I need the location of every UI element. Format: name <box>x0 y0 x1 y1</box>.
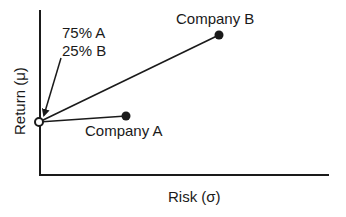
annotation-arrow <box>44 58 61 115</box>
x-axis-label: Risk (σ) <box>168 188 221 205</box>
company-a-point <box>122 112 131 121</box>
mix-label-line2: 25% B <box>62 42 106 59</box>
company-b-point <box>215 31 224 40</box>
risk-return-diagram: 75% A 25% B Company B Company A Risk (σ)… <box>0 0 346 217</box>
y-axis-label: Return (μ) <box>11 67 28 135</box>
mix-label-line1: 75% A <box>62 24 105 41</box>
portfolio-point <box>35 118 43 126</box>
company-a-label: Company A <box>85 122 163 139</box>
company-b-label: Company B <box>176 10 254 27</box>
